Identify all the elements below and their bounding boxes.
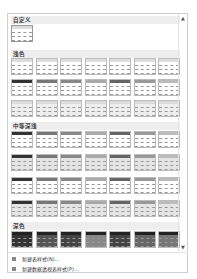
table-style-thumb[interactable] bbox=[60, 79, 82, 96]
table-style-thumb[interactable] bbox=[36, 79, 58, 96]
table-styles-dropdown: 自定义 浅色 中等深浅 深色 ▲ ▼ 新建表样式(N)... 新建数据透视表样式… bbox=[7, 13, 188, 273]
thumb-row bbox=[135, 189, 155, 193]
table-style-thumb[interactable] bbox=[109, 200, 131, 217]
thumb-row bbox=[61, 112, 81, 116]
table-style-thumb[interactable] bbox=[11, 79, 33, 96]
thumb-row bbox=[61, 166, 81, 170]
thumb-row bbox=[110, 143, 130, 147]
table-style-thumb[interactable] bbox=[85, 231, 107, 248]
table-style-thumb[interactable] bbox=[134, 200, 156, 217]
table-style-thumb[interactable] bbox=[134, 100, 156, 117]
gallery-scrollbar[interactable]: ▲ ▼ bbox=[178, 14, 187, 252]
table-style-thumb[interactable] bbox=[36, 231, 58, 248]
thumb-row bbox=[61, 189, 81, 193]
table-style-thumb[interactable] bbox=[85, 79, 107, 96]
table-style-thumb[interactable] bbox=[11, 200, 33, 217]
thumb-row bbox=[86, 112, 106, 116]
table-style-thumb[interactable] bbox=[158, 177, 180, 194]
table-style-thumb[interactable] bbox=[109, 231, 131, 248]
menu-item-label: 新建数据透视表样式(P)... bbox=[22, 264, 79, 274]
table-style-thumb[interactable] bbox=[60, 231, 82, 248]
table-style-thumb[interactable] bbox=[85, 58, 107, 75]
table-style-thumb[interactable] bbox=[11, 231, 33, 248]
thumb-row bbox=[159, 91, 179, 95]
table-style-thumb[interactable] bbox=[134, 231, 156, 248]
scroll-up-icon[interactable]: ▲ bbox=[180, 15, 186, 22]
table-style-thumb[interactable] bbox=[85, 100, 107, 117]
table-style-thumb[interactable] bbox=[11, 131, 33, 148]
table-style-thumb[interactable] bbox=[134, 177, 156, 194]
thumb-row bbox=[37, 70, 57, 74]
table-style-thumb[interactable] bbox=[109, 58, 131, 75]
table-style-thumb[interactable] bbox=[36, 100, 58, 117]
thumb-row bbox=[86, 189, 106, 193]
table-style-thumb[interactable] bbox=[109, 100, 131, 117]
table-style-thumb[interactable] bbox=[109, 177, 131, 194]
thumb-row bbox=[110, 189, 130, 193]
table-style-thumb[interactable] bbox=[109, 79, 131, 96]
table-style-thumb[interactable] bbox=[36, 177, 58, 194]
table-style-thumb[interactable] bbox=[60, 177, 82, 194]
table-style-thumb[interactable] bbox=[11, 154, 33, 171]
menu-item-new-table-style[interactable]: 新建表样式(N)... bbox=[8, 254, 180, 264]
scroll-down-icon[interactable]: ▼ bbox=[180, 244, 186, 251]
section-label-dark: 深色 bbox=[11, 222, 180, 230]
table-style-thumb[interactable] bbox=[85, 154, 107, 171]
table-style-thumb[interactable] bbox=[36, 154, 58, 171]
thumb-row bbox=[12, 189, 32, 193]
table-style-thumb[interactable] bbox=[134, 131, 156, 148]
table-style-thumb[interactable] bbox=[134, 154, 156, 171]
table-style-thumb[interactable] bbox=[11, 100, 33, 117]
thumb-row bbox=[135, 112, 155, 116]
table-style-thumb[interactable] bbox=[85, 200, 107, 217]
thumb-row bbox=[135, 212, 155, 216]
thumb-row bbox=[86, 243, 106, 247]
thumb-row bbox=[12, 166, 32, 170]
table-style-thumb[interactable] bbox=[158, 79, 180, 96]
table-style-thumb[interactable] bbox=[60, 58, 82, 75]
table-style-thumb[interactable] bbox=[158, 131, 180, 148]
table-style-thumb[interactable] bbox=[60, 154, 82, 171]
thumb-row bbox=[86, 212, 106, 216]
new-pivot-style-icon bbox=[12, 267, 16, 271]
table-style-thumb[interactable] bbox=[158, 58, 180, 75]
table-style-thumb[interactable] bbox=[60, 131, 82, 148]
table-style-thumb[interactable] bbox=[11, 177, 33, 194]
table-style-thumb[interactable] bbox=[11, 58, 33, 75]
thumb-row bbox=[159, 70, 179, 74]
table-style-thumb[interactable] bbox=[60, 200, 82, 217]
thumb-row bbox=[135, 70, 155, 74]
thumb-row bbox=[86, 166, 106, 170]
section-label-custom: 自定义 bbox=[11, 16, 180, 24]
table-style-thumb[interactable] bbox=[158, 200, 180, 217]
table-style-thumb[interactable] bbox=[85, 177, 107, 194]
thumb-row bbox=[12, 212, 32, 216]
table-style-thumb[interactable] bbox=[36, 58, 58, 75]
thumb-row bbox=[135, 243, 155, 247]
thumb-row bbox=[110, 243, 130, 247]
menu-item-new-pivot-style[interactable]: 新建数据透视表样式(P)... bbox=[8, 264, 180, 274]
table-style-thumb[interactable] bbox=[85, 131, 107, 148]
table-style-thumb[interactable] bbox=[36, 200, 58, 217]
thumb-row bbox=[61, 70, 81, 74]
thumb-row bbox=[12, 70, 32, 74]
table-style-thumb[interactable] bbox=[36, 131, 58, 148]
table-style-thumb[interactable] bbox=[134, 79, 156, 96]
table-style-thumb[interactable] bbox=[109, 131, 131, 148]
thumb-row bbox=[37, 91, 57, 95]
table-style-thumb[interactable] bbox=[158, 100, 180, 117]
table-style-thumb[interactable] bbox=[158, 231, 180, 248]
thumb-row bbox=[135, 91, 155, 95]
thumb-row bbox=[159, 112, 179, 116]
table-style-thumb[interactable] bbox=[134, 58, 156, 75]
table-style-thumb[interactable] bbox=[11, 25, 33, 42]
table-style-thumb[interactable] bbox=[109, 154, 131, 171]
thumb-row bbox=[61, 243, 81, 247]
thumb-row bbox=[12, 143, 32, 147]
thumb-row bbox=[159, 143, 179, 147]
thumb-row bbox=[110, 112, 130, 116]
thumb-row bbox=[12, 37, 32, 41]
table-style-thumb[interactable] bbox=[60, 100, 82, 117]
thumb-row bbox=[61, 143, 81, 147]
table-style-thumb[interactable] bbox=[158, 154, 180, 171]
